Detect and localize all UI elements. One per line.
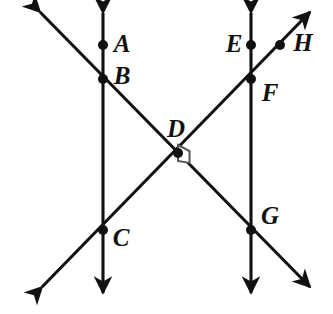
point-label-d: D bbox=[167, 116, 185, 141]
point-d bbox=[173, 148, 183, 158]
point-h bbox=[275, 40, 285, 50]
point-e bbox=[246, 40, 256, 50]
point-b bbox=[98, 74, 108, 84]
point-c bbox=[98, 225, 108, 235]
point-label-f: F bbox=[262, 80, 279, 105]
point-g bbox=[246, 225, 256, 235]
point-label-a: A bbox=[114, 31, 131, 56]
point-label-h: H bbox=[293, 30, 312, 55]
point-label-e: E bbox=[226, 31, 243, 56]
geometry-canvas bbox=[0, 0, 333, 314]
point-a bbox=[98, 40, 108, 50]
point-label-c: C bbox=[113, 225, 130, 250]
point-label-b: B bbox=[114, 63, 131, 88]
geometry-diagram: ABCDEFGH bbox=[0, 0, 333, 314]
point-f bbox=[246, 74, 256, 84]
point-label-g: G bbox=[261, 203, 279, 228]
